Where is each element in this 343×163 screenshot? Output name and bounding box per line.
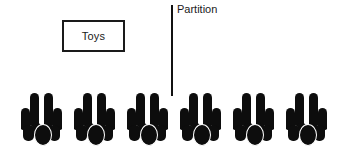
person-silhouette-center-right xyxy=(44,93,53,126)
person-head-front-center xyxy=(246,124,264,146)
person-silhouette-center-left xyxy=(295,93,304,126)
person-silhouette-center-left xyxy=(136,93,145,126)
person-head-front-center xyxy=(299,124,317,146)
figure-group-3 xyxy=(127,93,169,145)
figure-groups-row xyxy=(0,93,343,149)
person-silhouette-center-right xyxy=(97,93,106,126)
partition-line xyxy=(171,5,173,96)
person-silhouette-center-left xyxy=(242,93,251,126)
partition-label: Partition xyxy=(177,4,217,15)
person-head-front-center xyxy=(193,124,211,146)
person-head-front-center xyxy=(140,124,158,146)
diagram-canvas: Toys Partition xyxy=(0,0,343,163)
person-head-front-center xyxy=(34,124,52,146)
person-silhouette-center-right xyxy=(203,93,212,126)
toys-box: Toys xyxy=(62,20,125,52)
person-silhouette-center-left xyxy=(189,93,198,126)
figure-group-4 xyxy=(180,93,222,145)
person-silhouette-center-left xyxy=(83,93,92,126)
person-silhouette-center-right xyxy=(150,93,159,126)
person-silhouette-center-right xyxy=(309,93,318,126)
figure-group-5 xyxy=(233,93,275,145)
figure-group-1 xyxy=(21,93,63,145)
person-head-front-center xyxy=(87,124,105,146)
person-silhouette-center-right xyxy=(256,93,265,126)
figure-group-2 xyxy=(74,93,116,145)
toys-box-label: Toys xyxy=(82,31,105,42)
figure-group-6 xyxy=(286,93,328,145)
person-silhouette-center-left xyxy=(30,93,39,126)
